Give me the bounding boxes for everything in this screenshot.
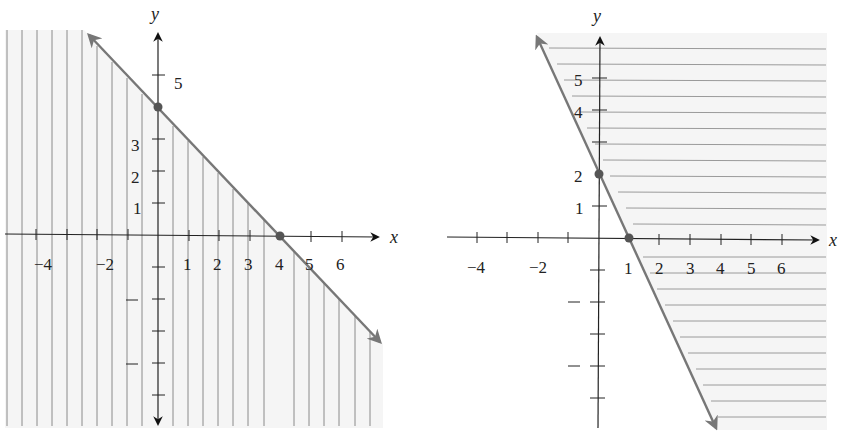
svg-text:2: 2	[574, 167, 583, 186]
left-x-axis-label: x	[389, 227, 398, 247]
right-graph: x y −4 −2 1 2 3 4 5 6 5 4 2 1	[447, 6, 837, 430]
svg-text:2: 2	[213, 255, 222, 274]
svg-text:1: 1	[575, 199, 584, 218]
svg-text:5: 5	[305, 255, 314, 274]
svg-text:−4: −4	[467, 258, 486, 277]
figure: x y −4 −2 1 2 3 4 5 6 5 3 2 1	[0, 0, 842, 448]
left-y-axis-label: y	[149, 4, 159, 24]
right-point-x-intercept	[625, 234, 634, 243]
svg-text:3: 3	[686, 259, 695, 278]
svg-text:−2: −2	[529, 258, 547, 277]
svg-text:2: 2	[131, 168, 140, 187]
svg-text:3: 3	[244, 255, 253, 274]
svg-text:1: 1	[133, 199, 142, 218]
svg-text:−4: −4	[34, 255, 53, 274]
svg-text:5: 5	[747, 259, 756, 278]
svg-text:6: 6	[777, 259, 786, 278]
left-point-y-intercept	[154, 103, 163, 112]
right-x-axis-label: x	[828, 230, 837, 250]
svg-text:5: 5	[574, 71, 583, 90]
svg-text:3: 3	[131, 136, 140, 155]
svg-text:1: 1	[624, 259, 633, 278]
svg-text:−2: −2	[96, 255, 114, 274]
svg-text:1: 1	[183, 255, 192, 274]
right-shaded-region	[537, 33, 827, 430]
right-point-y-intercept	[595, 170, 604, 179]
right-y-axis-label: y	[591, 6, 601, 26]
svg-text:4: 4	[574, 103, 583, 122]
svg-text:6: 6	[336, 255, 345, 274]
svg-text:2: 2	[655, 259, 664, 278]
svg-text:5: 5	[174, 74, 183, 93]
svg-text:4: 4	[716, 259, 725, 278]
left-graph: x y −4 −2 1 2 3 4 5 6 5 3 2 1	[5, 4, 398, 428]
svg-text:4: 4	[275, 255, 284, 274]
left-point-x-intercept	[276, 232, 285, 241]
left-shaded-region	[5, 30, 383, 428]
